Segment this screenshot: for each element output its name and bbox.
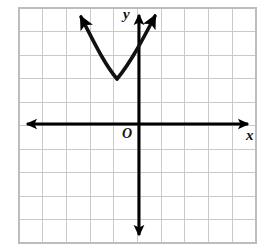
x-axis-label: x: [246, 128, 254, 143]
graph-figure: x y O: [0, 0, 274, 251]
coordinate-plane-svg: [0, 0, 274, 251]
y-axis-label: y: [123, 7, 130, 22]
origin-label: O: [122, 127, 132, 141]
